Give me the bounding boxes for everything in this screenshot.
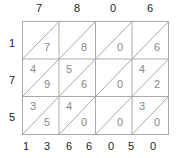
cell-ones-digit: 0: [113, 41, 127, 53]
cell-ones-digit: 8: [77, 41, 91, 53]
left-digit: 5: [2, 111, 22, 123]
result-digit: 1: [16, 140, 36, 152]
cell-tens-digit: 4: [26, 63, 40, 75]
top-digit: 6: [140, 2, 160, 14]
cell-tens-digit: 4: [62, 100, 76, 112]
cell-tens-digit: 4: [135, 63, 149, 75]
result-digit: 0: [101, 140, 121, 152]
result-digit: 0: [143, 140, 163, 152]
cell-ones-digit: 0: [150, 116, 164, 128]
cell-ones-digit: 0: [113, 78, 127, 90]
cell-ones-digit: 9: [40, 78, 54, 90]
result-digit: 3: [37, 140, 57, 152]
top-digit: 0: [103, 2, 123, 14]
top-digit: 8: [67, 2, 87, 14]
left-digit: 7: [2, 74, 22, 86]
cell-ones-digit: 2: [150, 78, 164, 90]
left-digit: 1: [2, 37, 22, 49]
top-digit: 7: [29, 2, 49, 14]
cell-tens-digit: 3: [26, 100, 40, 112]
cell-ones-digit: 6: [150, 41, 164, 53]
cell-tens-digit: 5: [62, 63, 76, 75]
cell-ones-digit: 0: [113, 116, 127, 128]
result-digit: 6: [59, 140, 79, 152]
result-digit: 6: [79, 140, 99, 152]
cell-tens-digit: 3: [135, 100, 149, 112]
result-digit: 5: [121, 140, 141, 152]
cell-ones-digit: 7: [40, 41, 54, 53]
cell-ones-digit: 0: [77, 116, 91, 128]
cell-ones-digit: 6: [77, 78, 91, 90]
cell-ones-digit: 5: [40, 116, 54, 128]
